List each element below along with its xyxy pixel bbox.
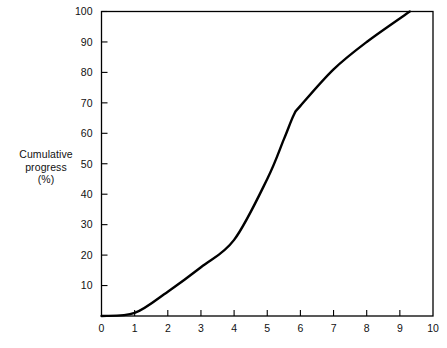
chart-figure: Cumulative progress (%) 1020304050607080…	[0, 0, 447, 348]
x-tick-label: 9	[397, 322, 403, 334]
y-tick-label: 80	[81, 66, 93, 78]
y-tick-label: 70	[81, 97, 93, 109]
plot-area: 102030405060708090100 012345678910	[0, 0, 447, 348]
plot-frame	[102, 12, 434, 317]
x-tick-label: 8	[364, 322, 370, 334]
y-tick-label: 50	[81, 158, 93, 170]
series-path-cumulative-progress	[102, 12, 410, 317]
y-tick-label: 60	[81, 127, 93, 139]
y-tick-label: 40	[81, 188, 93, 200]
y-axis-ticks: 102030405060708090100	[75, 5, 108, 291]
x-tick-label: 6	[297, 322, 303, 334]
x-tick-label: 7	[331, 322, 337, 334]
x-tick-label: 3	[198, 322, 204, 334]
x-tick-label: 0	[99, 322, 105, 334]
x-tick-label: 2	[165, 322, 171, 334]
y-tick-label: 30	[81, 218, 93, 230]
x-tick-label: 1	[132, 322, 138, 334]
x-tick-label: 5	[264, 322, 270, 334]
x-tick-label: 4	[231, 322, 237, 334]
plot-border	[102, 12, 434, 317]
y-tick-label: 100	[75, 5, 93, 17]
y-tick-label: 20	[81, 249, 93, 261]
x-axis-ticks: 012345678910	[99, 310, 439, 334]
x-tick-label: 10	[427, 322, 439, 334]
y-tick-label: 90	[81, 36, 93, 48]
y-tick-label: 10	[81, 279, 93, 291]
data-series-line	[102, 12, 410, 317]
